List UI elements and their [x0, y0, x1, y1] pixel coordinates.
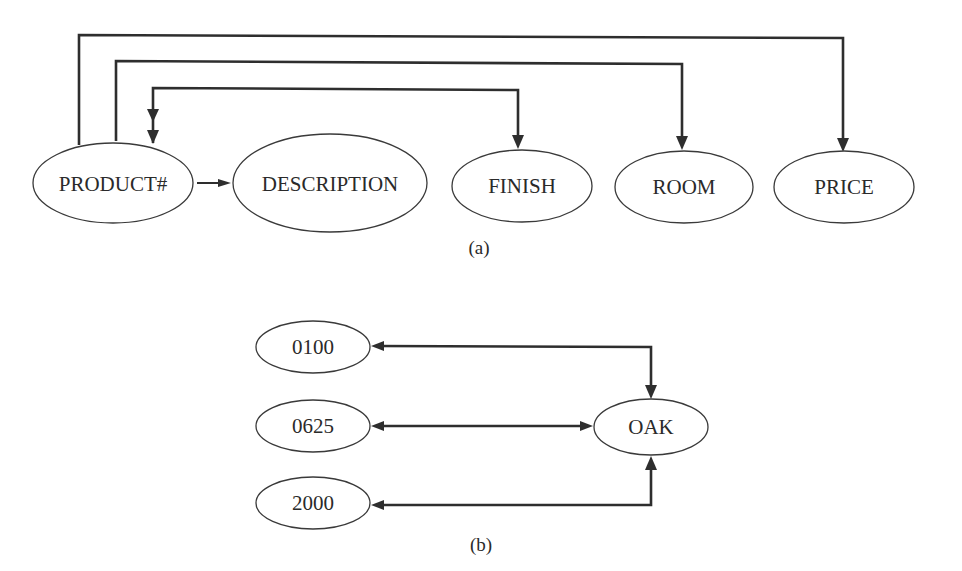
arrow-to-finish-icon — [512, 135, 524, 149]
caption-a: (a) — [468, 237, 489, 259]
arrow-to-0100-icon — [371, 341, 384, 351]
node-2000-label: 2000 — [292, 491, 334, 515]
edge-0100-oak — [378, 346, 651, 386]
arrow-to-price-icon — [837, 138, 849, 152]
node-price[interactable]: PRICE — [774, 151, 914, 223]
node-room-label: ROOM — [652, 175, 715, 199]
node-oak-label: OAK — [628, 415, 674, 439]
edge-2000-oak — [378, 468, 651, 505]
node-product[interactable]: PRODUCT# — [33, 143, 193, 223]
arrow-to-oak-bottom-icon — [645, 456, 657, 470]
node-oak[interactable]: OAK — [594, 399, 708, 455]
edge-product-room — [116, 61, 682, 141]
arrow-to-product-lower-icon — [147, 130, 159, 144]
arrow-to-oak-top-icon — [645, 385, 657, 399]
node-0100[interactable]: 0100 — [256, 321, 370, 373]
node-0100-label: 0100 — [292, 335, 334, 359]
node-description[interactable]: DESCRIPTION — [233, 134, 427, 232]
node-description-label: DESCRIPTION — [262, 172, 399, 196]
node-room[interactable]: ROOM — [615, 151, 753, 223]
node-price-label: PRICE — [814, 175, 874, 199]
arrow-to-room-icon — [676, 136, 688, 150]
arrow-to-0625-icon — [371, 421, 384, 431]
node-2000[interactable]: 2000 — [256, 477, 370, 529]
arrow-to-description-icon — [218, 179, 231, 187]
node-0625[interactable]: 0625 — [256, 400, 370, 452]
arrow-to-product-upper-icon — [147, 109, 159, 122]
node-product-label: PRODUCT# — [59, 172, 168, 196]
node-0625-label: 0625 — [292, 414, 334, 438]
node-finish-label: FINISH — [488, 174, 556, 198]
arrow-to-oak-left-icon — [580, 421, 593, 431]
node-finish[interactable]: FINISH — [452, 150, 592, 222]
arrow-to-2000-icon — [371, 500, 384, 510]
caption-b: (b) — [470, 534, 492, 556]
dependency-diagram: PRODUCT# DESCRIPTION FINISH ROOM PRICE (… — [0, 0, 962, 571]
